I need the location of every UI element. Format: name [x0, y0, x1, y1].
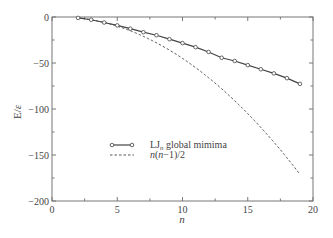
x-tick-label: 20	[308, 204, 318, 215]
legend-item-dashed: n(n−1)/2	[110, 149, 185, 161]
data-point	[89, 18, 93, 22]
data-point	[207, 50, 211, 54]
series-n-n-minus-1-over-2	[78, 18, 300, 174]
data-point	[142, 30, 146, 34]
series-lj-global-minima	[76, 16, 301, 86]
data-point	[298, 82, 302, 86]
x-axis-label: n	[179, 213, 185, 225]
data-point	[155, 33, 159, 37]
data-point	[272, 72, 276, 76]
y-tick-label: 0	[44, 12, 49, 23]
y-tick-label: −50	[33, 58, 49, 69]
data-point	[115, 24, 119, 28]
legend: LJn global mimima n(n−1)/2	[110, 139, 227, 161]
chart: 05101520 0−50−100−150−200 n E/ε LJn glob…	[0, 0, 333, 238]
data-point	[181, 41, 185, 45]
x-tick-label: 0	[50, 204, 55, 215]
data-point	[259, 67, 263, 71]
data-point	[285, 76, 289, 80]
data-point	[194, 45, 198, 49]
data-point	[233, 59, 237, 63]
y-tick-labels: 0−50−100−150−200	[28, 12, 49, 207]
svg-text:n(n−1)/2: n(n−1)/2	[150, 149, 185, 161]
y-tick-label: −150	[28, 150, 49, 161]
data-point	[102, 21, 106, 25]
data-point	[220, 56, 224, 60]
data-point	[246, 63, 250, 67]
y-axis-label: E/ε	[11, 104, 23, 119]
x-tick-label: 15	[243, 204, 253, 215]
y-tick-label: −100	[28, 104, 49, 115]
y-tick-label: −200	[28, 196, 49, 207]
x-tick-label: 5	[115, 204, 120, 215]
data-point	[76, 16, 80, 20]
data-point	[129, 27, 133, 31]
data-point	[168, 37, 172, 41]
